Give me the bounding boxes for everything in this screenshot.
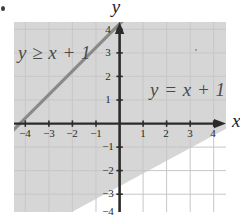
xtick-label: 1 (134, 127, 152, 139)
ytick-label: 2 (99, 70, 117, 82)
equation-label: y = x + 1 (150, 79, 226, 101)
ytick-label: −4 (99, 205, 117, 217)
ytick-label: −2 (99, 164, 117, 176)
ytick-label: −1 (99, 140, 117, 152)
x-axis-label: x (232, 110, 240, 132)
y-axis-label: y (104, 0, 128, 18)
xtick-label: 2 (157, 127, 175, 139)
ytick-label: 4 (99, 23, 117, 35)
xtick-label: −4 (16, 127, 34, 139)
ytick-label: 1 (99, 93, 117, 105)
xtick-label: −1 (87, 127, 105, 139)
xtick-label: 3 (181, 127, 199, 139)
scan-artifact-dot-icon (1, 6, 5, 11)
xtick-label: −3 (40, 127, 58, 139)
ytick-label: −3 (99, 187, 117, 199)
inequality-label: y ≥ x + 1 (18, 42, 91, 64)
ytick-label: 3 (99, 46, 117, 58)
xtick-label: −2 (63, 127, 81, 139)
figure-canvas: y x (0, 0, 240, 221)
xtick-label: 4 (204, 127, 222, 139)
scan-speck-icon (195, 49, 197, 51)
